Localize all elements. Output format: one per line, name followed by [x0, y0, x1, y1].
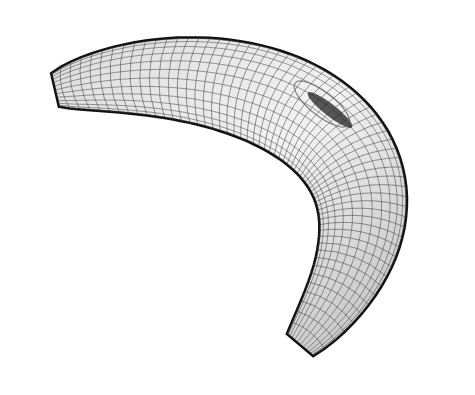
wireframe-surface-figure	[0, 0, 475, 395]
surface-body	[51, 37, 407, 356]
